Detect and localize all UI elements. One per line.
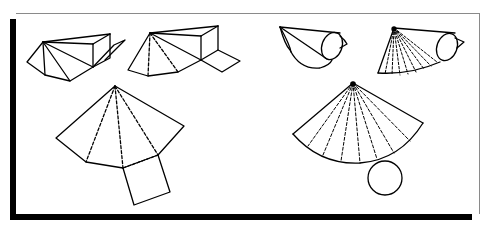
pyramid-folding-1: [27, 34, 125, 81]
cone-net: [293, 82, 423, 195]
pyramid-folding-2: [128, 26, 240, 76]
pyramid-net: [56, 86, 184, 205]
cone-folding-1: [280, 27, 347, 68]
nets-diagram: [0, 0, 490, 229]
cone-folding-2: [378, 27, 464, 75]
